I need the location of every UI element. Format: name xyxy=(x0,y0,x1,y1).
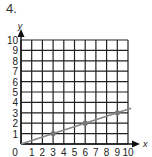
x-tick-label: 1 xyxy=(29,147,35,157)
x-tick-label: 9 xyxy=(115,147,121,157)
x-tick-label: 3 xyxy=(50,147,56,157)
x-tick-label: 8 xyxy=(104,147,110,157)
y-axis-label: y xyxy=(17,21,23,31)
x-axis-label: x xyxy=(142,139,148,149)
y-tick-label: 8 xyxy=(12,56,18,67)
x-tick-label: 7 xyxy=(93,147,99,157)
data-point xyxy=(83,121,88,126)
data-line xyxy=(21,108,131,144)
y-tick-label: 6 xyxy=(12,77,18,88)
y-tick-label: 2 xyxy=(12,118,18,129)
data-point xyxy=(115,110,120,115)
y-tick-label: 1 xyxy=(12,129,18,140)
x-tick-label: 10 xyxy=(122,147,134,157)
x-tick-label: 2 xyxy=(40,147,46,157)
data-point xyxy=(51,131,56,136)
coordinate-grid-chart: yx01234567891012345678910 xyxy=(0,0,152,157)
x-tick-label: 5 xyxy=(72,147,78,157)
y-tick-label: 9 xyxy=(12,45,18,56)
y-tick-label: 10 xyxy=(7,35,19,46)
x-tick-label: 6 xyxy=(82,147,88,157)
y-tick-label: 4 xyxy=(12,97,18,108)
y-tick-label: 5 xyxy=(12,87,18,98)
y-tick-label: 7 xyxy=(12,66,18,77)
x-tick-label: 4 xyxy=(61,147,67,157)
x-tick-label: 0 xyxy=(12,147,18,157)
y-tick-label: 3 xyxy=(12,108,18,119)
